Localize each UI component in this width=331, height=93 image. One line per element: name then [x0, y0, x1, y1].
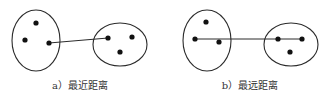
data-point	[117, 49, 122, 54]
cluster-ellipse	[264, 23, 318, 66]
caption-complete-linkage: b）最远距离	[222, 77, 278, 92]
data-point	[203, 19, 208, 24]
distance-line	[49, 38, 108, 43]
cluster-ellipse	[93, 23, 147, 66]
cluster-ellipse	[12, 10, 60, 71]
data-point	[299, 36, 304, 41]
data-point	[22, 37, 27, 42]
data-point	[46, 40, 51, 45]
caption-single-linkage: a）最近距离	[52, 77, 108, 92]
data-point	[287, 49, 292, 54]
data-point	[129, 34, 134, 39]
data-point	[105, 35, 110, 40]
cluster-distance-diagram	[0, 0, 331, 93]
data-point	[275, 36, 280, 41]
panel-b	[183, 10, 318, 71]
panel-a	[12, 10, 147, 71]
data-point	[192, 36, 197, 41]
data-point	[216, 39, 221, 44]
cluster-ellipse	[183, 10, 231, 71]
data-point	[33, 20, 38, 25]
